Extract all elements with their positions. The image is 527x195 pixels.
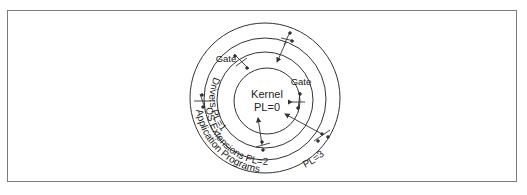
kernel-level-label: PL=0 [254,101,280,113]
gate-label-left: Gate [216,53,237,64]
kernel-label: Kernel [251,88,283,100]
gate-label-right: Gate [291,76,312,87]
ring-application-level-label: PL=3 [301,148,326,170]
protection-rings-diagram: Kernel PL=0 Drivers PL=1 OS Extensions P… [0,0,527,195]
